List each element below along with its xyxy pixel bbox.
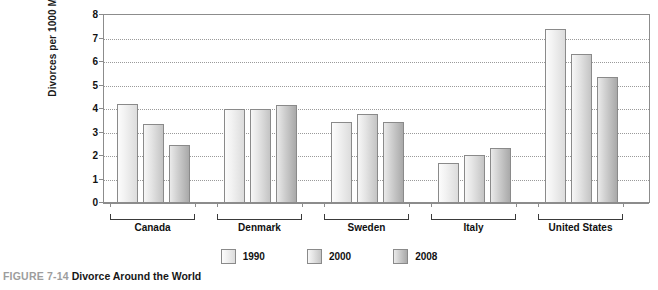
category-tick bbox=[409, 202, 410, 207]
bar-united-states-2000 bbox=[571, 54, 592, 203]
legend-item-1990: 1990 bbox=[221, 249, 265, 264]
bar-sweden-2008 bbox=[383, 122, 404, 203]
figure-caption: FIGURE 7-14 Divorce Around the World bbox=[3, 270, 653, 282]
category-bracket bbox=[538, 214, 623, 220]
chart-area: Divorces per 1000 Marriages 012345678 Ca… bbox=[0, 0, 658, 258]
legend-swatch-2008 bbox=[393, 249, 408, 264]
category-label-united-states: United States bbox=[518, 222, 643, 233]
category-bracket bbox=[217, 214, 302, 220]
bar-italy-2000 bbox=[464, 155, 485, 203]
category-tick bbox=[324, 202, 325, 207]
y-axis-tick-2: 2 bbox=[86, 150, 98, 161]
category-bracket bbox=[324, 214, 409, 220]
y-axis-tick-5: 5 bbox=[86, 79, 98, 90]
legend-label-2000: 2000 bbox=[329, 251, 351, 262]
legend-label-2008: 2008 bbox=[415, 251, 437, 262]
y-axis-label: Divorces per 1000 Marriages bbox=[47, 0, 58, 126]
gridline-6 bbox=[104, 62, 649, 63]
figure-divorce-around-the-world: Divorces per 1000 Marriages 012345678 Ca… bbox=[0, 0, 658, 290]
bar-denmark-1990 bbox=[224, 109, 245, 203]
category-bracket bbox=[431, 214, 516, 220]
category-tick bbox=[516, 202, 517, 207]
y-axis-tick-8: 8 bbox=[86, 9, 98, 20]
bar-sweden-2000 bbox=[357, 114, 378, 203]
legend-item-2000: 2000 bbox=[307, 249, 351, 264]
y-axis-tick-4: 4 bbox=[86, 103, 98, 114]
bar-sweden-1990 bbox=[331, 122, 352, 203]
bar-united-states-1990 bbox=[545, 29, 566, 203]
category-tick bbox=[431, 202, 432, 207]
gridline-4 bbox=[104, 109, 649, 110]
category-tick bbox=[302, 202, 303, 207]
legend-swatch-1990 bbox=[221, 249, 236, 264]
chart-legend: 199020002008 bbox=[0, 246, 658, 266]
bar-united-states-2008 bbox=[597, 77, 618, 203]
gridline-5 bbox=[104, 86, 649, 87]
legend-swatch-2000 bbox=[307, 249, 322, 264]
category-tick bbox=[623, 202, 624, 207]
plot-frame bbox=[103, 14, 650, 203]
bar-italy-1990 bbox=[438, 163, 459, 203]
category-tick bbox=[110, 202, 111, 207]
category-tick bbox=[195, 202, 196, 207]
y-axis-tick-6: 6 bbox=[86, 56, 98, 67]
y-axis-tick-7: 7 bbox=[86, 32, 98, 43]
category-bracket bbox=[110, 214, 195, 220]
figure-title: Divorce Around the World bbox=[72, 270, 202, 282]
bar-canada-2008 bbox=[169, 145, 190, 203]
y-axis-tick-1: 1 bbox=[86, 173, 98, 184]
bar-italy-2008 bbox=[490, 148, 511, 203]
category-tick bbox=[538, 202, 539, 207]
legend-label-1990: 1990 bbox=[243, 251, 265, 262]
figure-number: FIGURE 7-14 bbox=[3, 270, 69, 282]
bar-denmark-2000 bbox=[250, 109, 271, 203]
bar-denmark-2008 bbox=[276, 105, 297, 203]
bar-canada-1990 bbox=[117, 104, 138, 203]
category-tick bbox=[217, 202, 218, 207]
gridline-7 bbox=[104, 39, 649, 40]
legend-item-2008: 2008 bbox=[393, 249, 437, 264]
y-axis-tick-3: 3 bbox=[86, 126, 98, 137]
bar-canada-2000 bbox=[143, 124, 164, 203]
